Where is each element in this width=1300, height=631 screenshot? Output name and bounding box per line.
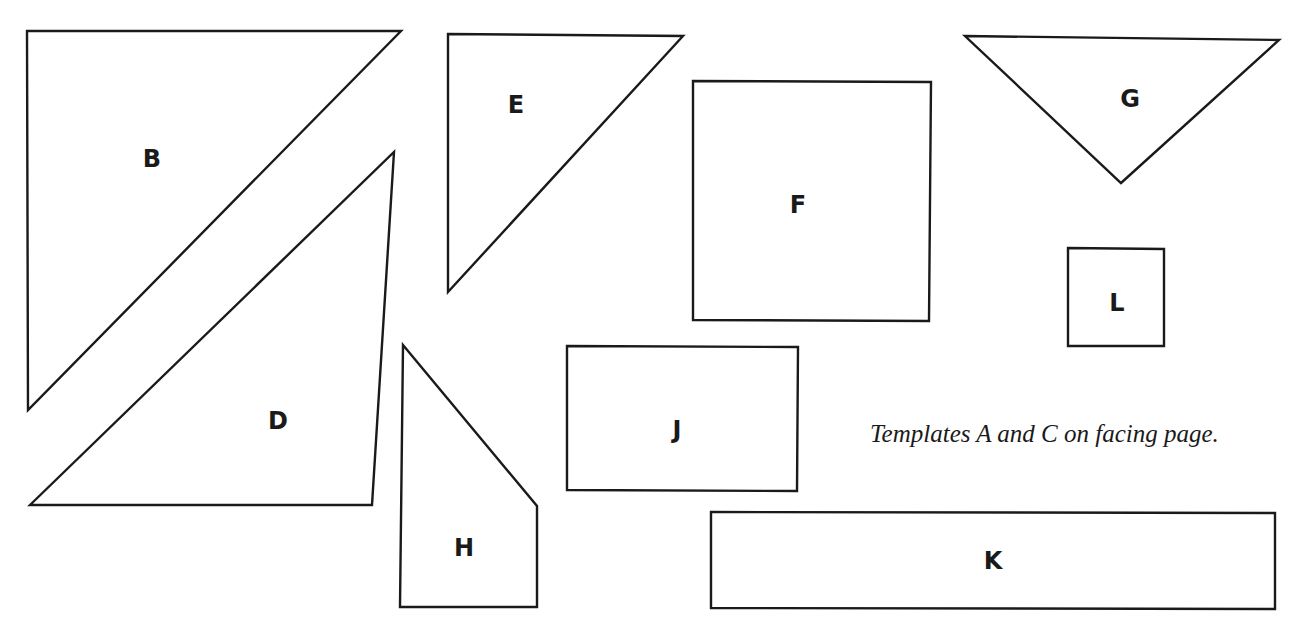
template-h-outline xyxy=(400,345,537,607)
template-k-label: K xyxy=(984,547,1004,575)
template-g-label: G xyxy=(1120,85,1140,113)
template-e: E xyxy=(448,34,683,292)
template-l-label: L xyxy=(1109,289,1124,317)
template-f: F xyxy=(693,81,931,321)
template-g: G xyxy=(965,36,1279,183)
template-d-label: D xyxy=(268,407,288,435)
template-l: L xyxy=(1068,248,1164,346)
template-j: J xyxy=(567,346,798,491)
template-e-outline xyxy=(448,34,683,292)
template-k: K xyxy=(711,512,1275,609)
template-f-label: F xyxy=(790,191,806,219)
template-j-label: J xyxy=(671,416,682,444)
template-h-label: H xyxy=(454,534,474,562)
template-h: H xyxy=(400,345,537,607)
template-b-label: B xyxy=(143,145,161,173)
template-sheet: BDEFGLHJK xyxy=(0,0,1300,631)
template-e-label: E xyxy=(508,91,524,119)
template-j-outline xyxy=(567,346,798,491)
facing-page-caption: Templates A and C on facing page. xyxy=(870,420,1290,448)
template-pieces: BDEFGLHJK xyxy=(27,31,1279,609)
template-f-outline xyxy=(693,81,931,321)
